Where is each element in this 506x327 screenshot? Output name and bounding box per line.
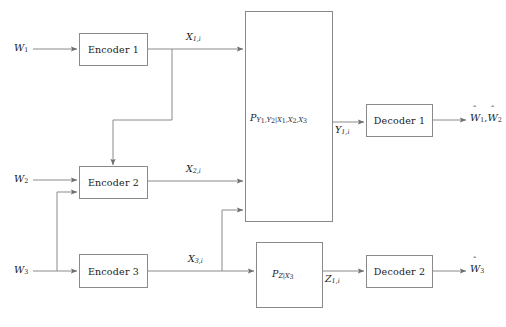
estimate-w1-symbol: W bbox=[470, 112, 480, 123]
signal-z1-label: Z1,i bbox=[325, 273, 340, 285]
side-channel-label: PZ|X3 bbox=[272, 268, 294, 282]
encoder-2-block[interactable]: Encoder 2 bbox=[79, 166, 148, 199]
estimate-w3-symbol: W bbox=[470, 263, 480, 274]
encoder-1-label: Encoder 1 bbox=[88, 44, 139, 55]
encoder-1-block[interactable]: Encoder 1 bbox=[79, 33, 148, 66]
estimate-w2-subscript: 2 bbox=[498, 116, 502, 124]
decoder-2-block[interactable]: Decoder 2 bbox=[366, 255, 433, 288]
z1-subscript: 1,i bbox=[332, 277, 340, 285]
x3-base: X bbox=[188, 253, 195, 264]
w2-symbol: W bbox=[14, 173, 24, 184]
message-w2-label: W2 bbox=[14, 173, 28, 185]
z1-base: Z bbox=[325, 273, 332, 284]
y1-subscript: 1,i bbox=[341, 128, 349, 136]
wire-x3-branch-to-channel bbox=[222, 210, 243, 271]
decoder-1-label: Decoder 1 bbox=[374, 115, 425, 126]
signal-x3-label: X3,i bbox=[188, 253, 203, 265]
encoder-2-label: Encoder 2 bbox=[88, 177, 139, 188]
x2-subscript: 2,i bbox=[193, 167, 201, 175]
signal-x1-label: X1,i bbox=[186, 31, 201, 43]
message-w3-label: W3 bbox=[14, 264, 28, 276]
encoder-3-block[interactable]: Encoder 3 bbox=[79, 254, 148, 288]
main-channel-label: PY1,Y2|X1,X2,X3 bbox=[250, 112, 307, 126]
main-channel-sub: Y1,Y2|X1,X2,X3 bbox=[256, 116, 307, 124]
encoder-3-label: Encoder 3 bbox=[88, 266, 139, 277]
x3-subscript: 3,i bbox=[195, 257, 203, 265]
x1-base: X bbox=[186, 31, 193, 42]
signal-y1-label: Y1,i bbox=[335, 124, 349, 136]
x1-subscript: 1,i bbox=[193, 35, 201, 43]
w3-subscript: 3 bbox=[24, 268, 28, 276]
message-w1-label: W1 bbox=[14, 42, 28, 54]
wire-x1-feedback-to-encoder2 bbox=[113, 49, 172, 165]
estimate-w1-w2-label: W1,W2 bbox=[470, 112, 502, 124]
estimate-w2-symbol: W bbox=[487, 112, 497, 123]
decoder-2-label: Decoder 2 bbox=[374, 266, 425, 277]
w1-subscript: 1 bbox=[24, 46, 28, 54]
signal-x2-label: X2,i bbox=[186, 163, 201, 175]
w2-subscript: 2 bbox=[24, 177, 28, 185]
w1-symbol: W bbox=[14, 42, 24, 53]
w3-symbol: W bbox=[14, 264, 24, 275]
estimate-w3-label: W3 bbox=[470, 263, 484, 275]
estimate-w3-subscript: 3 bbox=[480, 267, 484, 275]
figure-canvas: Encoder 1 Encoder 2 Encoder 3 PY1,Y2|X1,… bbox=[0, 0, 506, 327]
decoder-1-block[interactable]: Decoder 1 bbox=[366, 104, 433, 137]
side-channel-sub: Z|X3 bbox=[278, 272, 293, 280]
wire-w3-branch-to-encoder2 bbox=[57, 192, 77, 271]
x2-base: X bbox=[186, 163, 193, 174]
